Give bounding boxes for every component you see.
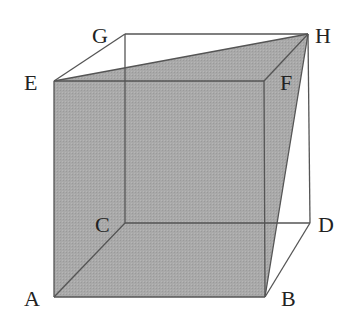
label-H: H: [315, 23, 331, 48]
label-B: B: [281, 286, 296, 311]
label-C: C: [95, 212, 110, 237]
cube-diagram: G H E F C D A B: [0, 0, 357, 328]
label-A: A: [24, 286, 40, 311]
label-F: F: [280, 70, 292, 95]
edge-HD: [308, 34, 310, 223]
label-D: D: [318, 212, 334, 237]
label-E: E: [24, 70, 37, 95]
label-G: G: [92, 23, 108, 48]
